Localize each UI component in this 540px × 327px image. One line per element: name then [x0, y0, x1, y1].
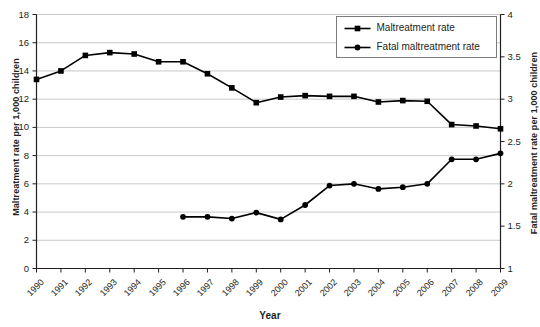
data-point-marker: [375, 186, 381, 192]
data-point-marker: [400, 98, 406, 104]
series-line-fatal-maltreatment-rate: [183, 153, 500, 219]
y-axis-title-left: Maltreatment rate per 1,000 children: [11, 2, 23, 272]
y-axis-title-right: Fatal maltreatment rate per 1,000 childr…: [529, 8, 540, 278]
data-point-marker: [253, 210, 259, 216]
data-point-marker: [131, 51, 137, 57]
data-point-marker: [302, 202, 308, 208]
data-point-marker: [58, 68, 64, 74]
data-point-marker: [156, 59, 162, 65]
data-point-marker: [376, 99, 382, 105]
data-point-marker: [180, 59, 186, 65]
data-point-marker: [498, 126, 504, 132]
y-tick-label-right: 3.5: [508, 51, 532, 62]
data-point-marker: [229, 216, 235, 222]
data-series-layer: [34, 50, 504, 222]
data-point-marker: [351, 94, 357, 100]
legend-item-label: Maltreatment rate: [377, 22, 455, 33]
data-point-marker: [107, 50, 113, 56]
data-point-marker: [449, 122, 455, 128]
legend-sample-marker: [355, 26, 361, 32]
data-point-marker: [473, 123, 479, 129]
data-point-marker: [253, 100, 259, 106]
data-point-marker: [327, 183, 333, 189]
data-point-marker: [498, 150, 504, 156]
data-point-marker: [400, 184, 406, 190]
data-point-marker: [278, 216, 284, 222]
data-point-marker: [83, 53, 89, 59]
legend-sample-marker: [355, 45, 361, 51]
data-point-marker: [351, 181, 357, 187]
data-point-marker: [424, 181, 430, 187]
series-line-maltreatment-rate: [37, 53, 501, 129]
legend-item-label: Fatal maltreatment rate: [377, 41, 480, 52]
data-point-marker: [473, 156, 479, 162]
y-tick-label-right: 1.5: [508, 220, 532, 231]
data-point-marker: [180, 214, 186, 220]
y-tick-label-right: 1: [508, 263, 532, 274]
data-point-marker: [205, 214, 211, 220]
y-tick-label-right: 4: [508, 9, 532, 20]
data-point-marker: [278, 94, 284, 100]
data-point-marker: [327, 94, 333, 100]
data-point-marker: [205, 71, 211, 77]
data-point-marker: [34, 77, 40, 83]
x-axis-title: Year: [0, 310, 540, 321]
data-point-marker: [302, 93, 308, 99]
data-point-marker: [229, 85, 235, 91]
y-tick-label-right: 2.5: [508, 136, 532, 147]
data-point-marker: [449, 156, 455, 162]
y-tick-label-right: 3: [508, 93, 532, 104]
chart-container: 024681012141618 11.522.533.54 1990199119…: [0, 0, 540, 327]
y-tick-label-right: 2: [508, 178, 532, 189]
data-point-marker: [424, 98, 430, 104]
